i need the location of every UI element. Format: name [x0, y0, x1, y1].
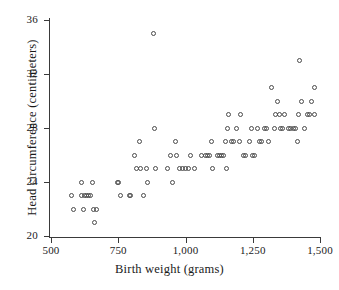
- data-point: [88, 193, 93, 198]
- data-point: [297, 58, 302, 63]
- data-point: [151, 31, 156, 36]
- data-point: [209, 139, 214, 144]
- data-point: [269, 85, 274, 90]
- data-point: [234, 126, 239, 131]
- data-point: [312, 85, 317, 90]
- data-point: [207, 153, 212, 158]
- data-point: [225, 126, 230, 131]
- data-point: [69, 193, 74, 198]
- data-point: [192, 166, 197, 171]
- data-point: [252, 153, 257, 158]
- data-point: [293, 126, 298, 131]
- data-point: [71, 207, 76, 212]
- y-tick-mark: [44, 74, 50, 75]
- data-point: [302, 126, 307, 131]
- data-point: [174, 153, 179, 158]
- data-point: [259, 139, 264, 144]
- x-axis-title: Birth weight (grams): [0, 262, 339, 277]
- data-point: [231, 139, 236, 144]
- x-tick-label: 1,250: [229, 245, 277, 256]
- y-axis-title: Head circumference (centimeters): [25, 8, 40, 248]
- data-point: [299, 99, 304, 104]
- data-point: [226, 112, 231, 117]
- data-point: [145, 180, 150, 185]
- data-point: [132, 153, 137, 158]
- data-point: [170, 180, 175, 185]
- data-point: [118, 193, 123, 198]
- data-point: [237, 139, 242, 144]
- data-point: [92, 220, 97, 225]
- data-point: [186, 166, 191, 171]
- data-point: [224, 166, 229, 171]
- data-point: [128, 193, 133, 198]
- data-point: [282, 112, 287, 117]
- data-point: [210, 166, 215, 171]
- x-tick-label: 1,000: [162, 245, 210, 256]
- data-point: [94, 207, 99, 212]
- scatter-plot-figure: 20242832365007501,0001,2501,500 Birth we…: [0, 0, 339, 290]
- data-point: [275, 99, 280, 104]
- y-tick-mark: [44, 182, 50, 183]
- x-tick-mark: [320, 238, 321, 243]
- data-point: [116, 180, 121, 185]
- data-point: [152, 126, 157, 131]
- data-point: [153, 166, 158, 171]
- data-point: [81, 207, 86, 212]
- x-tick-label: 1,500: [296, 245, 339, 256]
- x-tick-mark: [118, 238, 119, 243]
- data-point: [277, 112, 282, 117]
- y-tick-mark: [44, 20, 50, 21]
- data-point: [165, 166, 170, 171]
- data-point: [255, 126, 260, 131]
- x-tick-label: 750: [94, 245, 142, 256]
- x-tick-mark: [51, 238, 52, 243]
- data-point: [137, 139, 142, 144]
- data-point: [266, 139, 271, 144]
- data-point: [295, 139, 300, 144]
- data-point: [138, 166, 143, 171]
- plot-area: 20242832365007501,0001,2501,500 Birth we…: [0, 0, 339, 290]
- data-point: [141, 193, 146, 198]
- y-tick-mark: [44, 128, 50, 129]
- data-point: [144, 166, 149, 171]
- data-point: [280, 126, 285, 131]
- data-point: [264, 126, 269, 131]
- y-tick-mark: [44, 236, 50, 237]
- data-point: [79, 180, 84, 185]
- x-tick-mark: [186, 238, 187, 243]
- data-point: [221, 153, 226, 158]
- data-point: [309, 99, 314, 104]
- data-point: [243, 153, 248, 158]
- data-point: [272, 126, 277, 131]
- data-point: [296, 112, 301, 117]
- data-point: [223, 139, 228, 144]
- data-point: [238, 112, 243, 117]
- x-tick-mark: [253, 238, 254, 243]
- data-point: [312, 112, 317, 117]
- data-point: [247, 139, 252, 144]
- data-point: [188, 153, 193, 158]
- data-point: [90, 180, 95, 185]
- data-point: [168, 153, 173, 158]
- data-point: [173, 139, 178, 144]
- data-point: [249, 126, 254, 131]
